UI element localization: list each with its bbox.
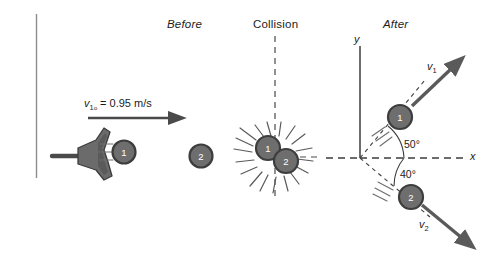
motion-streaks-after-1 (372, 127, 392, 146)
y-axis-label: y (354, 33, 360, 45)
angle-arc-50 (388, 126, 404, 158)
initial-velocity-units: m/s (131, 97, 152, 109)
x-axis-label: x (470, 150, 476, 162)
v1-symbol: v (427, 60, 433, 72)
v1-label: v1 (427, 60, 437, 72)
before-ball-2: 2 (190, 145, 213, 168)
before-ball-2-number: 2 (198, 151, 203, 162)
before-panel-artwork: 1 2 (52, 118, 213, 180)
after-panel-artwork: 1 2 (326, 46, 464, 238)
v2-subscript: 2 (425, 224, 429, 233)
after-ball-2-number: 2 (408, 192, 413, 203)
collision-ball-2: 2 (274, 149, 298, 173)
motion-streaks-after-2 (373, 182, 393, 201)
after-ball-1-number: 1 (397, 112, 402, 123)
after-ball-1: 1 (388, 105, 412, 129)
angle-label-40: 40° (400, 168, 416, 180)
v1-velocity-arrow (412, 68, 452, 106)
panel-title-collision: Collision (253, 18, 298, 30)
panel-title-before: Before (167, 18, 202, 30)
before-ball-1: 1 (113, 141, 136, 164)
collision-ball-1-number: 1 (265, 143, 270, 154)
initial-velocity-equals: = (97, 97, 110, 109)
panel-title-after: After (383, 18, 408, 30)
collision-ball-2-number: 2 (283, 156, 288, 167)
physics-collision-figure: 1 2 (0, 0, 496, 264)
initial-velocity-value: 0.95 (110, 97, 131, 109)
after-ball-2: 2 (399, 185, 423, 209)
v2-symbol: v (419, 218, 425, 230)
angle-label-50: 50° (404, 138, 420, 150)
initial-velocity-subscript-o: o (94, 105, 97, 111)
v2-label: v2 (419, 218, 429, 230)
collision-panel-artwork: 1 2 (234, 36, 318, 200)
initial-velocity-label: v1o = 0.95 m/s (84, 97, 152, 109)
v1-subscript: 1 (433, 66, 437, 75)
before-ball-1-number: 1 (121, 147, 126, 158)
